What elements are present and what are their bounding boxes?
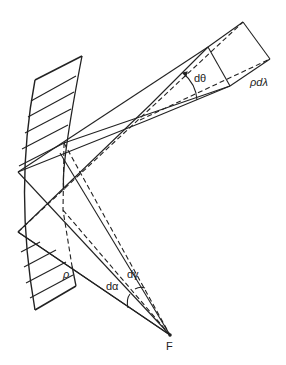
d-gamma-arc [135, 287, 145, 289]
label-focus: F [166, 340, 173, 352]
label-rho: ρ [63, 268, 69, 280]
d-theta-arrow [183, 72, 187, 76]
label-d-gamma: dγ [127, 268, 139, 280]
label-rho-d-lambda: ρdλ [250, 76, 268, 88]
d-alpha-arc [127, 294, 130, 308]
focus-point [169, 334, 171, 336]
beam-box [148, 22, 270, 120]
label-d-theta: dθ [194, 72, 206, 84]
label-d-alpha: dα [106, 280, 118, 292]
mirror-beam-diagram [0, 0, 286, 365]
